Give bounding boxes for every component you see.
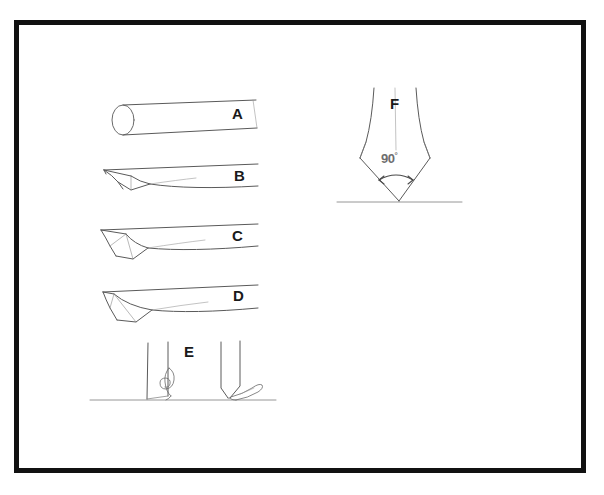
- figure-label-c: C: [232, 228, 243, 243]
- figure-label-e: E: [184, 344, 195, 359]
- figure-label-a: A: [232, 106, 243, 121]
- figure-label-b: B: [234, 168, 245, 183]
- figure-label-d: D: [233, 288, 244, 303]
- technical-line-drawing: [0, 0, 604, 495]
- shaving-curl-left: [160, 368, 174, 400]
- panel-e-shafts-with-shavings: [90, 341, 276, 400]
- figure-page: A B C D E F 90°: [0, 0, 604, 495]
- apex-angle-arrow: [379, 175, 413, 184]
- apex-angle-annotation: 90°: [381, 152, 397, 165]
- degree-symbol: °: [394, 151, 397, 160]
- figure-label-f: F: [390, 96, 400, 111]
- apex-angle-value: 90: [381, 151, 394, 166]
